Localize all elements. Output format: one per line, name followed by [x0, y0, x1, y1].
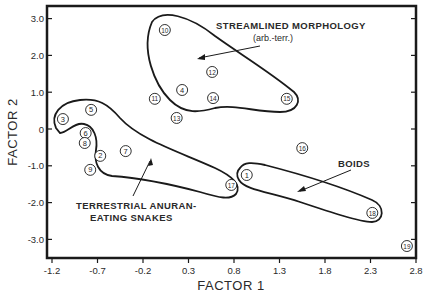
annotation-boids-label: BOIDS	[338, 158, 370, 169]
annotation-terrestrial-line1: TERRESTRIAL ANURAN-	[76, 200, 197, 211]
data-point-14: 14	[208, 93, 219, 104]
data-point-13: 13	[171, 112, 182, 123]
x-tick-label: 1.3	[273, 265, 286, 276]
y-tick-label: 3.0	[31, 13, 44, 24]
data-point-16: 16	[297, 143, 308, 154]
y-tick-label: 1.0	[31, 87, 44, 98]
arrow-head-icon	[148, 158, 153, 166]
point-label: 2	[98, 151, 102, 160]
point-label: 8	[83, 139, 87, 148]
x-axis: -1.2-0.7-0.20.30.81.31.82.32.8	[44, 258, 423, 276]
data-point-15: 15	[281, 93, 292, 104]
point-label: 14	[209, 95, 217, 102]
data-point-3: 3	[57, 114, 68, 125]
data-point-4: 4	[177, 84, 188, 95]
y-tick-label: 0	[39, 124, 44, 135]
x-tick-label: -1.2	[44, 265, 60, 276]
scatter-chart: -1.2-0.7-0.20.30.81.31.82.32.8 3.02.01.0…	[0, 0, 430, 297]
point-label: 17	[228, 182, 236, 189]
annotation-streamlined: STREAMLINED MORPHOLOGY (arb.-terr.)	[197, 20, 366, 60]
data-point-9: 9	[85, 164, 96, 175]
point-label: 9	[88, 165, 92, 174]
point-label: 16	[299, 145, 307, 152]
point-label: 12	[209, 69, 217, 76]
point-label: 4	[180, 86, 184, 95]
annotation-terrestrial-line2: EATING SNAKES	[90, 212, 173, 223]
point-label: 5	[89, 105, 93, 114]
x-tick-label: 2.8	[409, 265, 422, 276]
y-axis-title: FACTOR 2	[5, 98, 20, 165]
point-label: 15	[283, 95, 291, 102]
data-point-11: 11	[149, 93, 160, 104]
y-tick-label: 2.0	[31, 50, 44, 61]
point-label: 6	[84, 129, 88, 138]
y-tick-label: -3.0	[28, 234, 44, 245]
point-label: 19	[403, 243, 411, 250]
data-point-10: 10	[159, 25, 170, 36]
data-point-18: 18	[367, 207, 378, 218]
point-label: 13	[173, 115, 181, 122]
data-point-19: 19	[401, 241, 412, 252]
x-tick-label: -0.2	[135, 265, 151, 276]
x-tick-label: 0.8	[227, 265, 240, 276]
point-label: 7	[124, 147, 128, 156]
point-label: 3	[61, 115, 65, 124]
data-point-2: 2	[95, 150, 106, 161]
point-label: 1	[245, 171, 249, 180]
arrow-line	[199, 46, 260, 58]
x-tick-label: -0.7	[89, 265, 105, 276]
arrow-head-icon	[297, 186, 306, 192]
point-label: 11	[151, 95, 158, 102]
y-tick-label: -1.0	[28, 160, 44, 171]
x-tick-label: 0.3	[182, 265, 195, 276]
arrow-head-icon	[197, 54, 205, 60]
annotation-streamlined-line2: (arb.-terr.)	[253, 33, 293, 43]
data-point-5: 5	[86, 104, 97, 115]
annotation-streamlined-line1: STREAMLINED MORPHOLOGY	[216, 20, 366, 31]
data-point-6: 6	[80, 128, 91, 139]
data-point-7: 7	[120, 146, 131, 157]
x-tick-label: 2.3	[364, 265, 377, 276]
group-outline-boids	[237, 163, 382, 222]
annotation-boids: BOIDS	[297, 158, 370, 192]
point-label: 18	[369, 210, 377, 217]
y-tick-label: -2.0	[28, 197, 44, 208]
data-point-1: 1	[241, 170, 252, 181]
x-axis-title: FACTOR 1	[197, 278, 264, 293]
data-point-8: 8	[79, 137, 90, 148]
group-outline-terrestrial	[54, 100, 237, 198]
data-point-12: 12	[207, 66, 218, 77]
data-point-17: 17	[226, 179, 237, 190]
x-tick-label: 1.8	[318, 265, 331, 276]
point-label: 10	[161, 27, 169, 34]
